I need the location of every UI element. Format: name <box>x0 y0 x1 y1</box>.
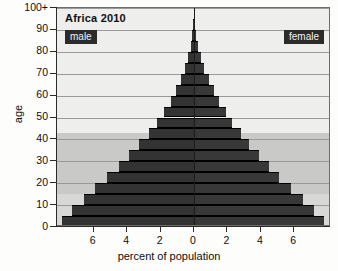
bar-male <box>171 96 194 107</box>
y-axis-tick-label: 10 <box>4 199 48 210</box>
x-axis-tick <box>126 226 127 232</box>
zero-axis-line <box>194 8 195 225</box>
x-axis-tick-label: 2 <box>216 234 236 246</box>
bar-female <box>194 150 259 161</box>
bar-male <box>139 139 194 150</box>
x-axis-tick <box>93 226 94 232</box>
y-axis-tick <box>50 73 56 74</box>
x-axis-tick-label: 4 <box>250 234 270 246</box>
y-axis-line <box>56 7 57 226</box>
bar-female <box>194 96 219 107</box>
bar-female <box>194 63 204 74</box>
population-pyramid-chart: Africa 2010 male female 0102030405060708… <box>0 0 338 271</box>
x-axis-tick-label: 4 <box>116 234 136 246</box>
bar-female <box>194 139 249 150</box>
chart-title: Africa 2010 <box>65 12 126 24</box>
y-axis-tick-label: 70 <box>4 67 48 78</box>
bar-female <box>194 118 232 129</box>
bar-male <box>84 194 194 205</box>
y-axis-tick-label: 90 <box>4 23 48 34</box>
bar-male <box>157 118 194 129</box>
x-axis-tick <box>193 226 194 232</box>
bar-male <box>181 74 194 85</box>
bar-male <box>185 63 194 74</box>
y-axis-tick <box>50 7 56 8</box>
y-axis-tick-label: 60 <box>4 89 48 100</box>
bar-female <box>194 52 201 63</box>
x-axis-tick-label: 0 <box>183 234 203 246</box>
bar-female <box>194 161 269 172</box>
legend-badge-male: male <box>65 30 97 44</box>
y-axis-tick-label: 20 <box>4 177 48 188</box>
bar-female <box>194 172 279 183</box>
y-axis-tick <box>50 226 56 227</box>
y-axis-tick-label: 40 <box>4 133 48 144</box>
bar-female <box>194 216 324 226</box>
bar-female <box>194 128 241 139</box>
x-axis-tick-label: 6 <box>283 234 303 246</box>
y-axis-tick-label: 100+ <box>4 2 48 13</box>
bar-female <box>194 194 303 205</box>
y-axis-tick <box>50 182 56 183</box>
y-axis-tick <box>50 51 56 52</box>
y-axis-tick <box>50 117 56 118</box>
bar-male <box>72 205 194 216</box>
y-axis-title: age <box>12 84 24 144</box>
y-axis-tick-label: 50 <box>4 111 48 122</box>
bar-male <box>176 85 194 96</box>
bar-female <box>194 205 314 216</box>
y-axis-tick <box>50 138 56 139</box>
y-axis-tick <box>50 160 56 161</box>
x-axis-tick <box>260 226 261 232</box>
bar-male <box>119 161 194 172</box>
y-axis-tick-label: 30 <box>4 155 48 166</box>
x-axis-tick-label: 2 <box>150 234 170 246</box>
bar-male <box>95 183 194 194</box>
bar-female <box>194 183 291 194</box>
bar-female <box>194 107 226 118</box>
bar-female <box>194 74 209 85</box>
y-axis-tick <box>50 204 56 205</box>
bar-male <box>149 128 194 139</box>
x-axis-tick <box>293 226 294 232</box>
y-axis-tick <box>50 95 56 96</box>
y-axis-tick <box>50 29 56 30</box>
plot-area: Africa 2010 male female <box>56 7 330 226</box>
x-axis-tick <box>160 226 161 232</box>
bar-male <box>129 150 194 161</box>
bar-female <box>194 85 214 96</box>
y-axis-tick-label: 80 <box>4 45 48 56</box>
x-axis-tick <box>226 226 227 232</box>
bar-male <box>107 172 194 183</box>
y-axis-tick-label: 0 <box>4 221 48 232</box>
legend-badge-female: female <box>284 30 324 44</box>
bar-male <box>164 107 194 118</box>
x-axis-title: percent of population <box>0 250 338 262</box>
bar-male <box>62 216 194 226</box>
x-axis-tick-label: 6 <box>83 234 103 246</box>
